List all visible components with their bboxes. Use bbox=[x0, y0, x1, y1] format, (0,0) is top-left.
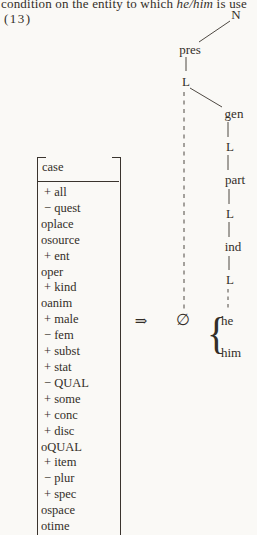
feature-matrix-rows: + all− questoplaceosource+ entoper+ kind… bbox=[41, 185, 89, 535]
tree-node-L2: L bbox=[226, 139, 234, 154]
lex-item-him: him bbox=[221, 345, 241, 361]
feature-row: + disc bbox=[41, 424, 89, 440]
feature-row: + male bbox=[41, 312, 89, 328]
feature-row: − fem bbox=[41, 328, 89, 344]
bracket-top-right-cap bbox=[112, 157, 120, 162]
feature-row: − quest bbox=[41, 201, 89, 217]
tree-node-ind: ind bbox=[225, 239, 242, 254]
feature-row: osource bbox=[41, 233, 89, 249]
scanned-book-page: condition on the entity to which he/him … bbox=[0, 0, 257, 535]
tree-node-part: part bbox=[225, 172, 245, 187]
body-text-italic-he-him: he/him bbox=[177, 0, 214, 11]
feature-row: + all bbox=[41, 185, 89, 201]
null-set-symbol: ∅ bbox=[176, 310, 190, 329]
edge-N-pres bbox=[199, 21, 230, 42]
tree-node-pres: pres bbox=[179, 42, 201, 57]
tree-node-N: N bbox=[231, 7, 240, 22]
feature-row: + stat bbox=[41, 360, 89, 376]
feature-row: + ent bbox=[41, 249, 89, 265]
feature-row: oper bbox=[41, 265, 89, 281]
tree-node-L3: L bbox=[226, 206, 234, 221]
feature-row: − QUAL bbox=[41, 376, 89, 392]
matrix-header-rule bbox=[38, 181, 119, 182]
tree-node-L4: L bbox=[226, 272, 234, 287]
tree-node-gen: gen bbox=[225, 106, 244, 121]
feature-row: + kind bbox=[41, 280, 89, 296]
feature-row: − plur bbox=[41, 471, 89, 487]
feature-row: oQUAL bbox=[41, 440, 89, 456]
matrix-header-case: case bbox=[42, 160, 64, 175]
feature-row: oplace bbox=[41, 217, 89, 233]
feature-row: + spec bbox=[41, 487, 89, 503]
body-text-line: condition on the entity to which he/him … bbox=[1, 0, 257, 12]
feature-row: otime bbox=[41, 519, 89, 535]
edge-L-gen bbox=[190, 88, 222, 107]
feature-row: + conc bbox=[41, 408, 89, 424]
body-text-post: is use bbox=[213, 0, 247, 11]
feature-row: ospace bbox=[41, 503, 89, 519]
tree-node-L1: L bbox=[182, 74, 190, 89]
feature-row: + item bbox=[41, 455, 89, 471]
feature-row: + subst bbox=[41, 344, 89, 360]
feature-row: + some bbox=[41, 392, 89, 408]
body-text-pre: condition on the entity to which bbox=[1, 0, 177, 11]
lex-item-he: he bbox=[221, 313, 233, 329]
feature-row: oanim bbox=[41, 296, 89, 312]
double-arrow-symbol: ⇒ bbox=[135, 312, 148, 330]
example-number: (13) bbox=[4, 11, 32, 27]
